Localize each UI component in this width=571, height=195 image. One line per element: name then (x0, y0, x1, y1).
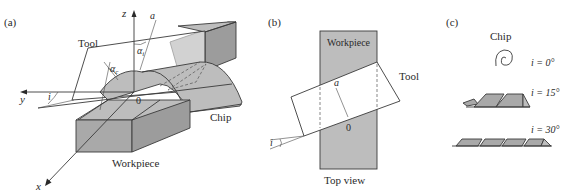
origin-label: 0 (346, 122, 351, 133)
chip-angle-30: i = 30° (531, 124, 560, 135)
tool-label: Tool (399, 70, 419, 82)
line-a-label: a (334, 77, 339, 88)
chip-angle-0: i = 0° (531, 57, 555, 68)
chip-label: Chip (210, 111, 232, 123)
workpiece-front (76, 120, 132, 152)
z-axis-label: z (121, 7, 127, 19)
panel-c: (c) Chip i = 0° i = 15° i = 30° (446, 16, 560, 146)
z-arrow-icon (132, 10, 137, 17)
tool-label: Tool (78, 37, 98, 49)
panel-a-label: (a) (4, 16, 17, 29)
workpiece-label: Workpiece (112, 157, 159, 169)
line-a-label: a (150, 10, 155, 21)
panel-b: (b) Workpiece a 0 Tool i Top view (268, 16, 419, 186)
origin-label: 0 (136, 95, 141, 106)
panel-c-label: (c) (446, 16, 459, 29)
top-view-caption: Top view (324, 174, 365, 186)
angle-i-label: i (270, 137, 273, 148)
angle-i-label: i (48, 91, 51, 102)
spiral-chip-icon (496, 50, 513, 66)
y-axis-label: y (19, 93, 25, 105)
chip-angle-15: i = 15° (531, 87, 560, 98)
x-axis-label: x (35, 180, 41, 192)
helical-chip-30-icon (452, 139, 552, 146)
panel-a: (a) z y x a (4, 7, 242, 192)
helical-chip-15-icon (463, 94, 530, 107)
chip-title: Chip (490, 30, 512, 42)
panel-b-label: (b) (268, 16, 281, 29)
workpiece-top-label: Workpiece (327, 37, 371, 48)
oblique-cutting-diagram: (a) z y x a (0, 0, 571, 195)
